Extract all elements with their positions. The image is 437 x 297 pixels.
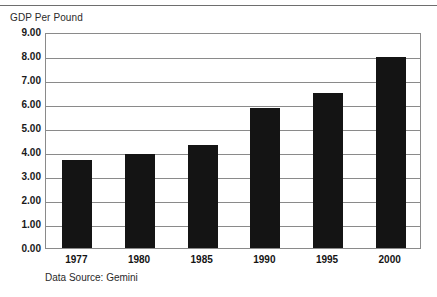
chart-bar: [125, 154, 155, 248]
x-axis-tick-label: 1995: [297, 254, 357, 266]
chart-axis-caption: GDP Per Pound: [10, 12, 83, 24]
y-axis-tick-label: 8.00: [0, 52, 41, 62]
y-axis-tick-label: 2.00: [0, 196, 41, 206]
x-axis-tick-label: 1977: [46, 254, 106, 266]
chart-bar: [188, 145, 218, 248]
chart-bar: [313, 93, 343, 248]
header-rule: [0, 5, 437, 6]
chart-bar: [62, 160, 92, 248]
y-axis-tick-label: 9.00: [0, 28, 41, 38]
y-axis-tick-labels: 9.008.007.006.005.004.003.002.001.000.00: [0, 33, 41, 249]
x-axis-tick-label: 1980: [109, 254, 169, 266]
y-axis-tick-label: 7.00: [0, 76, 41, 86]
chart-bar: [376, 57, 406, 248]
y-axis-tick-label: 1.00: [0, 220, 41, 230]
y-axis-tick-label: 5.00: [0, 124, 41, 134]
x-axis-tick-label: 2000: [360, 254, 420, 266]
chart-plot-area: [45, 33, 421, 249]
y-axis-tick-label: 6.00: [0, 100, 41, 110]
x-axis-tick-label: 1990: [234, 254, 294, 266]
data-source-note: Data Source: Gemini: [45, 272, 138, 284]
y-axis-tick-label: 0.00: [0, 244, 41, 254]
y-axis-tick-label: 4.00: [0, 148, 41, 158]
chart-bar: [250, 108, 280, 248]
x-axis-tick-label: 1985: [172, 254, 232, 266]
y-axis-tick-label: 3.00: [0, 172, 41, 182]
x-axis-tick-labels: 197719801985199019952000: [45, 254, 421, 268]
chart-bars: [46, 34, 420, 248]
